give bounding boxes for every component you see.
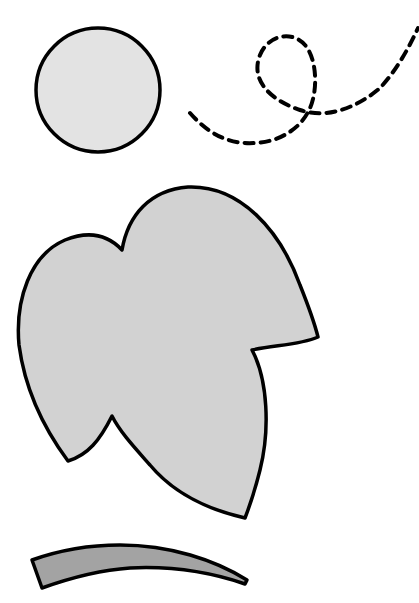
- illustration-canvas: [0, 0, 419, 603]
- stem-shape: [32, 545, 247, 588]
- dashed-loop-path: [190, 28, 418, 143]
- circle-shape: [36, 28, 160, 152]
- leaf-shape: [18, 187, 318, 518]
